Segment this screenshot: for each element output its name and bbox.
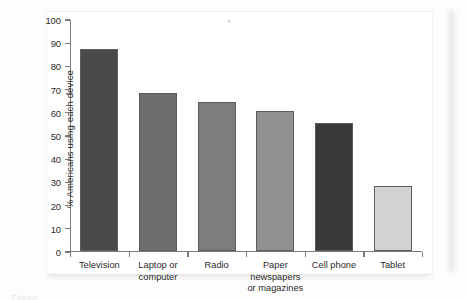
y-tick-label: 50 — [51, 130, 61, 141]
bar — [256, 111, 294, 250]
x-axis-category-label: Television — [66, 260, 133, 272]
y-tick: 100 — [65, 19, 70, 20]
x-tick — [70, 252, 71, 257]
bar — [315, 123, 353, 251]
y-axis-title: % Americans using each device — [64, 70, 75, 208]
figure-page: % Americans using each device 0102030405… — [0, 0, 467, 300]
bar — [80, 49, 118, 251]
scan-shadow-bottom — [48, 273, 430, 280]
y-tick-label: 30 — [51, 177, 61, 188]
caption-fragment: Figure — [12, 293, 38, 300]
y-tick-label: 0 — [56, 246, 61, 257]
y-tick: 10 — [65, 228, 70, 229]
x-tick — [187, 252, 188, 257]
bar — [374, 186, 412, 251]
x-tick — [246, 252, 247, 257]
bar — [198, 102, 236, 250]
scan-shadow-right — [449, 10, 457, 272]
y-tick: 30 — [65, 182, 70, 183]
y-tick: 70 — [65, 89, 70, 90]
x-axis-category-label: Laptop or computer — [125, 260, 192, 283]
y-tick: 80 — [65, 66, 70, 67]
x-tick — [129, 252, 130, 257]
plot-area: % Americans using each device 0102030405… — [70, 20, 422, 252]
y-tick: 40 — [65, 159, 70, 160]
x-tick — [305, 252, 306, 257]
x-axis-category-label: Radio — [183, 260, 250, 272]
y-tick-label: 80 — [51, 61, 61, 72]
y-tick-label: 10 — [51, 223, 61, 234]
y-tick: 50 — [65, 135, 70, 136]
y-tick: 90 — [65, 43, 70, 44]
y-tick-label: 20 — [51, 200, 61, 211]
bar — [139, 93, 177, 251]
x-axis-category-label: Cell phone — [301, 260, 368, 272]
y-tick-label: 70 — [51, 84, 61, 95]
y-tick-label: 60 — [51, 107, 61, 118]
y-tick-label: 40 — [51, 154, 61, 165]
x-axis-category-label: Paper newspapers or magazines — [242, 260, 309, 295]
x-axis-category-label: Tablet — [359, 260, 426, 272]
x-tick — [422, 252, 423, 257]
y-tick: 20 — [65, 205, 70, 206]
x-tick — [363, 252, 364, 257]
bar-chart-figure: % Americans using each device 0102030405… — [47, 12, 432, 274]
y-tick: 60 — [65, 112, 70, 113]
y-tick-label: 100 — [45, 15, 61, 26]
y-tick-label: 90 — [51, 38, 61, 49]
